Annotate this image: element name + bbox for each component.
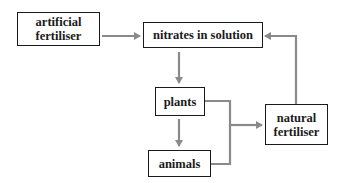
node-label: plants: [164, 95, 197, 109]
arrow-natural-to-nitrates: [265, 36, 296, 104]
node-artificial-fertiliser: artificial fertiliser: [17, 12, 100, 46]
node-label-line2: fertiliser: [274, 125, 320, 139]
node-label-line1: natural: [277, 111, 317, 125]
node-natural-fertiliser: natural fertiliser: [265, 104, 328, 145]
node-label-line1: artificial: [36, 15, 82, 29]
node-nitrates-in-solution: nitrates in solution: [143, 22, 263, 48]
node-label: animals: [159, 157, 201, 171]
node-plants: plants: [155, 87, 205, 116]
node-animals: animals: [148, 150, 211, 177]
node-label-line2: fertiliser: [36, 29, 82, 43]
node-label: nitrates in solution: [153, 28, 253, 42]
